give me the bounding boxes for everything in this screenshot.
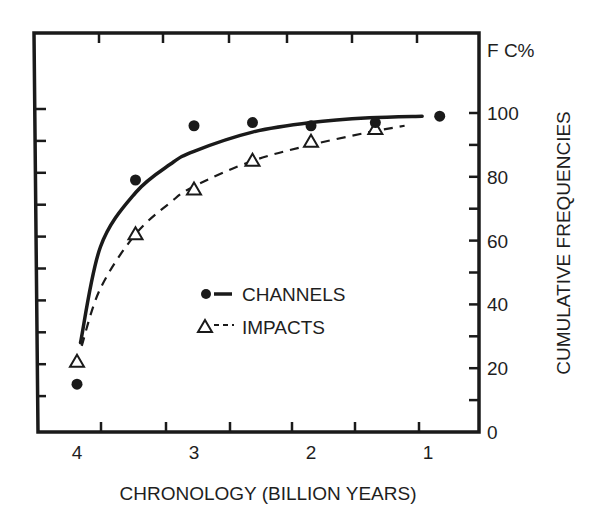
y-tick-label: 80 xyxy=(487,167,508,188)
channels-dot-marker xyxy=(130,174,141,185)
fitted-curves xyxy=(81,116,423,346)
legend-label-impacts: IMPACTS xyxy=(242,317,325,338)
data-points xyxy=(70,111,445,390)
axis-ticks xyxy=(36,33,479,432)
y-tick-labels: 020406080100 xyxy=(487,103,519,443)
y-axis-title: CUMULATIVE FREQUENCIES xyxy=(553,111,574,375)
channels-dot-marker xyxy=(247,117,258,128)
x-axis-title: CHRONOLOGY (BILLION YEARS) xyxy=(119,483,416,504)
y-tick-label: 0 xyxy=(487,422,498,443)
chart: 4321 020406080100 F C% CUMULATIVE FREQUE… xyxy=(0,0,600,530)
channels-dot-marker xyxy=(306,120,317,131)
channels-dot-marker xyxy=(72,379,83,390)
y-unit-label: F C% xyxy=(487,40,535,61)
x-tick-label: 2 xyxy=(306,442,317,463)
channels-dot-marker xyxy=(434,111,445,122)
x-tick-label: 4 xyxy=(72,442,83,463)
legend: CHANNELS IMPACTS xyxy=(198,284,345,338)
x-tick-label: 3 xyxy=(189,442,200,463)
legend-item-impacts: IMPACTS xyxy=(198,317,325,338)
filled-circle-icon xyxy=(201,289,211,299)
open-triangle-icon xyxy=(198,320,212,332)
y-tick-label: 100 xyxy=(487,103,519,124)
channels-dot-marker xyxy=(370,117,381,128)
x-tick-label: 1 xyxy=(423,442,434,463)
y-tick-label: 60 xyxy=(487,231,508,252)
channels-solid-curve xyxy=(81,116,423,342)
impacts-triangle-marker xyxy=(304,135,318,147)
legend-label-channels: CHANNELS xyxy=(242,284,345,305)
channels-dot-marker xyxy=(189,120,200,131)
plot-frame xyxy=(34,33,479,432)
impacts-triangle-marker xyxy=(70,355,84,367)
plot-border xyxy=(34,33,479,432)
legend-item-channels: CHANNELS xyxy=(201,284,345,305)
x-tick-labels: 4321 xyxy=(72,442,434,463)
impacts-triangle-marker xyxy=(246,154,260,166)
y-tick-label: 40 xyxy=(487,294,508,315)
y-tick-label: 20 xyxy=(487,358,508,379)
